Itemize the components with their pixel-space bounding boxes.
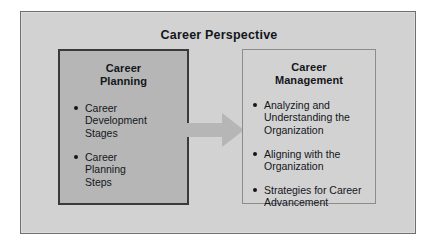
list-item-line: Aligning with the xyxy=(264,148,375,161)
heading-line: Management xyxy=(243,74,375,87)
list-item-line: Strategies for Career xyxy=(264,184,375,197)
list-item-line: Analyzing and xyxy=(264,99,375,112)
list-item-line: Understanding the xyxy=(264,111,375,124)
list-item-line: Organization xyxy=(264,160,375,173)
list-item: Analyzing and Understanding the Organiza… xyxy=(253,99,375,137)
bullet-dot-icon xyxy=(74,106,78,110)
career-planning-box: Career Planning Career Development Stage… xyxy=(58,49,189,205)
list-item: Career Development Stages xyxy=(74,102,187,140)
career-management-bullet-list: Analyzing and Understanding the Organiza… xyxy=(253,99,375,209)
heading-line: Career xyxy=(60,62,187,75)
bullet-dot-icon xyxy=(74,155,78,159)
list-item-line: Career xyxy=(85,151,187,164)
list-item-line: Steps xyxy=(85,176,187,189)
list-item-line: Advancement xyxy=(264,196,375,209)
list-item: Aligning with the Organization xyxy=(253,148,375,173)
heading-line: Career xyxy=(243,61,375,74)
list-item: Career Planning Steps xyxy=(74,151,187,189)
bullet-dot-icon xyxy=(253,188,257,192)
figure-title: Career Perspective xyxy=(21,28,417,42)
list-item-line: Stages xyxy=(85,127,187,140)
bullet-dot-icon xyxy=(253,103,257,107)
career-planning-heading: Career Planning xyxy=(60,62,187,89)
career-perspective-figure: Career Perspective Career Planning Caree… xyxy=(0,0,436,248)
list-item-line: Career xyxy=(85,102,187,115)
list-item-line: Planning xyxy=(85,163,187,176)
list-item-line: Development xyxy=(85,114,187,127)
list-item-line: Organization xyxy=(264,124,375,137)
career-planning-bullet-list: Career Development Stages Career Plannin… xyxy=(74,102,187,189)
career-management-box: Career Management Analyzing and Understa… xyxy=(242,49,376,204)
bullet-dot-icon xyxy=(253,152,257,156)
right-arrow-icon xyxy=(186,113,244,147)
figure-panel: Career Perspective Career Planning Caree… xyxy=(20,11,416,234)
list-item: Strategies for Career Advancement xyxy=(253,184,375,209)
career-management-heading: Career Management xyxy=(243,61,375,88)
heading-line: Planning xyxy=(60,75,187,88)
